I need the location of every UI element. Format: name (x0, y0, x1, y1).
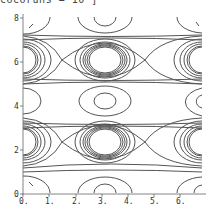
x-tick-label: 2. (72, 197, 82, 206)
separator-line (23, 35, 202, 37)
vortex-center-upper (75, 39, 135, 81)
y-tick-label: 8 (14, 14, 19, 23)
vortex-left-upper (23, 39, 51, 81)
vortex-center-lower (75, 121, 135, 163)
x-tick-label: 3. (98, 197, 108, 206)
separator-line (23, 82, 202, 84)
small-vortex-middle (79, 86, 131, 116)
y-tick-label: 4 (14, 102, 19, 111)
x-tick-label: 4. (124, 197, 134, 206)
plot-area (23, 17, 202, 193)
x-tick-labels: 0. 1. 2. 3. 4. 5. 6. (19, 197, 186, 206)
separator-line (23, 170, 202, 172)
y-tick-label: 2 (14, 146, 19, 155)
x-tick-label: 5. (150, 197, 160, 206)
contour-plot: 8 6 4 2 0 0. 1. 2. 3. 4. 5. 6. (0, 0, 213, 210)
vortex-right-upper (174, 39, 202, 81)
y-tick-labels: 8 6 4 2 0 (14, 14, 19, 199)
y-tick-label: 6 (14, 58, 19, 67)
x-tick-label: 0. (19, 197, 29, 206)
x-tick-label: 1. (45, 197, 55, 206)
x-tick-label: 6. (176, 197, 186, 206)
separator-line (23, 164, 202, 168)
